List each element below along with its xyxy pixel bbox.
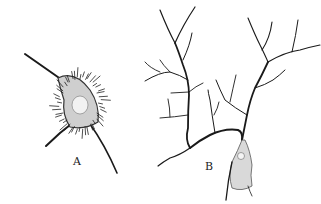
cell-b-branch	[216, 80, 247, 115]
cell-b-branch	[160, 115, 188, 118]
label-b: B	[205, 160, 213, 173]
cell-b-branch	[208, 90, 215, 133]
cell-a-spine	[76, 129, 78, 135]
cell-b-branch	[160, 60, 170, 72]
cell-a-spine	[53, 94, 59, 97]
cell-b-branch	[145, 62, 160, 72]
cell-a-spine	[90, 75, 96, 82]
cell-a-spine	[55, 115, 62, 117]
cell-a-spine	[57, 102, 62, 103]
cell-a-spine	[83, 72, 85, 78]
cell-b-right-trunk	[242, 62, 268, 140]
cell-a-spine	[77, 67, 78, 77]
cell-a-spine	[56, 113, 64, 115]
cell-a-nucleus	[72, 96, 88, 114]
cell-b-branch	[268, 45, 320, 62]
figure: A B	[0, 0, 321, 204]
cell-b-branch	[168, 99, 170, 117]
cell-a: A	[25, 54, 117, 173]
cell-a-spine	[97, 92, 105, 94]
cell-b-branch	[248, 18, 268, 62]
cell-a-spine	[98, 89, 105, 91]
cell-a-spine	[99, 106, 105, 108]
cell-b-branch	[214, 102, 219, 115]
cell-b-branch	[171, 92, 189, 93]
cell-a-spine	[52, 109, 61, 110]
cell-b-branch	[230, 75, 236, 102]
cell-b-nucleus	[238, 153, 245, 160]
cell-b-branch	[292, 20, 298, 52]
cell-b-branch	[158, 148, 190, 166]
label-a: A	[72, 155, 82, 168]
cell-a-spine	[49, 106, 59, 107]
cell-b: B	[145, 7, 320, 200]
cell-b-branch	[175, 7, 195, 43]
cell-a-spine	[80, 74, 81, 79]
cell-a-fiber-upper	[25, 54, 62, 80]
cell-a-spine	[99, 96, 108, 97]
cell-a-spine	[93, 76, 101, 83]
cell-a-spine	[82, 129, 83, 139]
cell-b-body	[230, 140, 252, 190]
cell-a-spine	[100, 109, 106, 112]
cell-b-branch	[160, 10, 175, 43]
cell-a-spine	[59, 119, 64, 122]
cell-a-spine	[95, 85, 100, 88]
cell-a-spine	[93, 83, 97, 86]
cell-a-fiber-tail	[90, 124, 117, 173]
cell-b-branch	[189, 83, 203, 92]
cell-a-spine	[101, 100, 111, 101]
cell-b-branch	[145, 72, 188, 81]
cell-b-branch	[183, 33, 192, 60]
cell-b-left-trunk	[175, 43, 190, 148]
cell-b-bridge	[190, 130, 242, 148]
cell-a-spine	[85, 126, 86, 135]
cell-a-spine	[64, 124, 70, 131]
cell-a-spine	[74, 71, 75, 80]
cell-a-spine	[98, 103, 103, 104]
cell-b-branch	[262, 22, 272, 50]
cell-a-spine	[55, 98, 61, 100]
cell-a-spine	[87, 127, 89, 135]
